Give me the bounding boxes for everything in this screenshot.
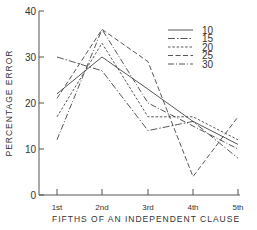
y-tick-label: 30 (25, 52, 37, 63)
x-tick-label: 1st (52, 203, 63, 212)
y-tick-label: 0 (30, 190, 36, 201)
y-tick-label: 40 (25, 6, 37, 17)
y-tick-label: 20 (25, 98, 37, 109)
chart-svg: 0102030401st2nd3rd4th5th 1015202530 PERC… (0, 0, 257, 230)
y-axis-label: PERCENTAGE ERROR (4, 50, 14, 157)
x-tick-label: 2nd (95, 203, 108, 212)
legend-label-30: 30 (202, 59, 214, 70)
y-tick-label: 10 (25, 144, 37, 155)
x-tick-label: 3rd (142, 203, 154, 212)
x-tick-label: 4th (187, 203, 198, 212)
legend: 1015202530 (168, 25, 214, 70)
x-tick-label: 5th (232, 203, 243, 212)
series-line-10 (57, 57, 238, 144)
line-chart: 0102030401st2nd3rd4th5th 1015202530 PERC… (0, 0, 257, 230)
x-axis-label: FIFTHS OF AN INDEPENDENT CLAUSE (52, 214, 240, 224)
